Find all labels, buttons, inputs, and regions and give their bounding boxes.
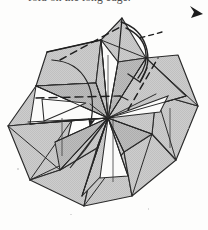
arrow-corner-marker bbox=[190, 6, 203, 18]
diagram-page: fold on the long edge. bbox=[0, 0, 208, 230]
pinwheel-figure bbox=[0, 0, 208, 230]
dashed-tick-right bbox=[140, 32, 162, 38]
